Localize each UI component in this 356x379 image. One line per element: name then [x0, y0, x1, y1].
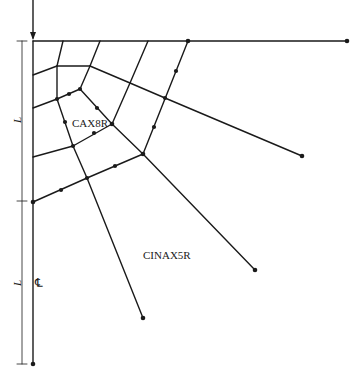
cax8r-mesh	[33, 41, 188, 202]
mesh-drawing	[0, 0, 356, 379]
centerline-symbol: ℄	[35, 276, 43, 291]
dimension-label-lower: L	[11, 280, 23, 286]
dimension-label-upper: L	[11, 117, 23, 123]
dimension-line	[17, 41, 27, 364]
cinax5r-label: CINAX5R	[143, 249, 191, 261]
fe-mesh-diagram: CAX8R CINAX5R L L ℄	[0, 0, 356, 379]
cax8r-label: CAX8R	[72, 117, 108, 129]
load-arrow-head	[30, 32, 36, 40]
